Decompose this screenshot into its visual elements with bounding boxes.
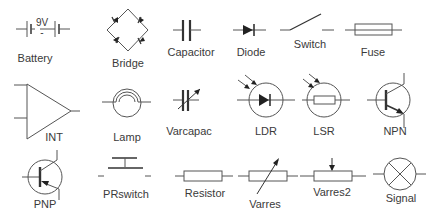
switch-icon[interactable] [280, 14, 334, 30]
diode-icon[interactable] [233, 24, 266, 36]
label-signal[interactable]: Signal [386, 192, 417, 204]
label-prswitch[interactable]: PRswitch [103, 188, 149, 200]
bridge-rectifier-icon[interactable] [107, 9, 148, 51]
label-resistor[interactable]: Resistor [185, 187, 225, 199]
battery-voltage-dash: - [40, 28, 43, 38]
component-palette: 9V - Battery Bridge Capacitor Diode Swit… [0, 0, 439, 222]
ldr-icon[interactable] [237, 75, 295, 117]
variable-capacitor-icon[interactable] [173, 89, 200, 111]
resistor-icon[interactable] [175, 171, 233, 181]
pnp-transistor-icon[interactable] [22, 150, 62, 200]
potentiometer-icon[interactable] [300, 158, 366, 181]
lamp-icon[interactable] [102, 89, 151, 117]
label-npn[interactable]: NPN [383, 125, 406, 137]
label-battery[interactable]: Battery [18, 52, 53, 64]
label-varcapac[interactable]: Varcapac [166, 125, 212, 137]
label-varres[interactable]: Varres [249, 198, 281, 210]
capacitor-icon[interactable] [173, 20, 201, 41]
label-pnp[interactable]: PNP [34, 198, 57, 210]
label-int[interactable]: INT [45, 131, 63, 143]
label-capacitor[interactable]: Capacitor [167, 46, 214, 58]
label-bridge[interactable]: Bridge [112, 57, 144, 69]
fuse-icon[interactable] [345, 24, 402, 35]
label-lamp[interactable]: Lamp [113, 131, 141, 143]
label-lsr[interactable]: LSR [313, 125, 334, 137]
signal-lamp-icon[interactable] [373, 158, 426, 190]
npn-transistor-icon[interactable] [367, 73, 410, 128]
label-varres2[interactable]: Varres2 [313, 186, 351, 198]
lsr-icon[interactable] [302, 74, 350, 117]
label-diode[interactable]: Diode [237, 46, 266, 58]
label-fuse[interactable]: Fuse [361, 46, 385, 58]
variable-resistor-icon[interactable] [238, 158, 298, 194]
label-switch[interactable]: Switch [294, 38, 326, 50]
push-switch-icon[interactable] [98, 158, 151, 176]
label-ldr[interactable]: LDR [255, 125, 277, 137]
